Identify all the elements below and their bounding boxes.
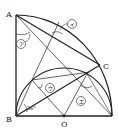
segment-AC xyxy=(16,15,100,65)
label-u-text: ウ xyxy=(48,85,53,91)
label-i-text: イ xyxy=(70,21,75,27)
point-B-label: B xyxy=(6,115,12,124)
angle-arc-e xyxy=(80,85,92,88)
segment-AD xyxy=(16,15,112,116)
geometry-figure: ア イ ウ エ 36° A B C O xyxy=(0,0,118,131)
leader-a xyxy=(25,34,30,42)
point-O-label: O xyxy=(61,120,68,129)
segment-D-upper xyxy=(86,72,112,116)
point-O-dot xyxy=(63,115,66,118)
label-i: イ xyxy=(68,20,77,29)
label-e: エ xyxy=(77,97,86,106)
label-u: ウ xyxy=(46,84,55,93)
angle-arc-a xyxy=(16,32,30,35)
label-e-text: エ xyxy=(79,98,84,104)
angle-arc-u xyxy=(38,84,42,88)
label-a-text: ア xyxy=(19,41,24,48)
point-A-label: A xyxy=(5,10,12,19)
point-C-label: C xyxy=(103,62,109,71)
angle-36-label: 36° xyxy=(27,105,36,111)
label-a: ア xyxy=(17,40,26,49)
